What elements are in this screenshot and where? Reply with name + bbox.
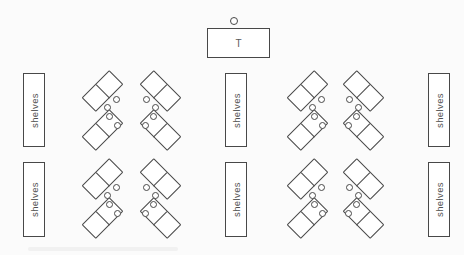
student-desk-pair — [342, 109, 384, 151]
teacher-desk: T — [207, 28, 270, 58]
chair-icon — [114, 210, 121, 217]
chair-icon — [150, 113, 157, 120]
chair-icon — [355, 104, 362, 111]
student-desk-pair — [286, 109, 328, 151]
chair-icon — [345, 122, 352, 129]
desk-cluster — [285, 108, 329, 152]
chair-icon — [142, 210, 149, 217]
chair-icon — [353, 113, 360, 120]
desk-divider — [300, 172, 314, 186]
student-desk-pair — [81, 109, 123, 151]
desk-cluster — [80, 157, 124, 201]
desk-divider — [356, 84, 370, 98]
chair-icon — [319, 122, 326, 129]
desk-divider — [153, 123, 167, 137]
chair-icon — [142, 122, 149, 129]
teacher-chair-icon — [230, 17, 238, 25]
chair-icon — [346, 96, 353, 103]
classroom-diagram: T shelvesshelvesshelvesshelvesshelvesshe… — [0, 0, 464, 255]
shelf-label: shelves — [434, 92, 445, 127]
desk-cluster — [138, 157, 182, 201]
student-desk-pair — [139, 109, 181, 151]
shelf-label: shelves — [29, 182, 40, 217]
chair-icon — [143, 96, 150, 103]
chair-icon — [152, 104, 159, 111]
student-desk-pair — [342, 197, 384, 239]
desk-divider — [153, 211, 167, 225]
chair-icon — [106, 113, 113, 120]
desk-divider — [300, 123, 314, 137]
chair-icon — [152, 192, 159, 199]
desk-divider — [153, 172, 167, 186]
chair-icon — [309, 192, 316, 199]
desk-divider — [95, 172, 109, 186]
desk-divider — [356, 123, 370, 137]
chair-icon — [345, 210, 352, 217]
desk-divider — [95, 123, 109, 137]
student-desk-pair — [286, 70, 328, 112]
shelf-label: shelves — [29, 92, 40, 127]
chair-icon — [353, 201, 360, 208]
chair-icon — [106, 201, 113, 208]
desk-cluster — [341, 196, 385, 240]
desk-divider — [300, 211, 314, 225]
shelf-unit: shelves — [23, 73, 45, 147]
shelf-label: shelves — [231, 182, 242, 217]
shelf-unit: shelves — [225, 73, 247, 147]
chair-icon — [113, 184, 120, 191]
shelf-unit: shelves — [428, 73, 450, 147]
desk-cluster — [138, 196, 182, 240]
student-desk-pair — [81, 70, 123, 112]
student-desk-pair — [81, 158, 123, 200]
teacher-desk-label: T — [235, 38, 241, 49]
student-desk-pair — [139, 70, 181, 112]
desk-cluster — [285, 196, 329, 240]
desk-divider — [300, 84, 314, 98]
student-desk-pair — [139, 158, 181, 200]
desk-cluster — [341, 157, 385, 201]
shelf-label: shelves — [231, 92, 242, 127]
student-desk-pair — [81, 197, 123, 239]
chair-icon — [104, 192, 111, 199]
desk-cluster — [138, 108, 182, 152]
desk-cluster — [341, 108, 385, 152]
chair-icon — [311, 113, 318, 120]
caption-remnant — [28, 247, 178, 251]
chair-icon — [311, 201, 318, 208]
desk-cluster — [285, 69, 329, 113]
student-desk-pair — [342, 158, 384, 200]
desk-cluster — [80, 108, 124, 152]
chair-icon — [150, 201, 157, 208]
chair-icon — [355, 192, 362, 199]
chair-icon — [113, 96, 120, 103]
chair-icon — [143, 184, 150, 191]
chair-icon — [318, 96, 325, 103]
desk-divider — [95, 84, 109, 98]
desk-cluster — [138, 69, 182, 113]
shelf-unit: shelves — [428, 162, 450, 237]
desk-cluster — [80, 196, 124, 240]
desk-divider — [356, 211, 370, 225]
desk-divider — [356, 172, 370, 186]
desk-cluster — [285, 157, 329, 201]
chair-icon — [104, 104, 111, 111]
student-desk-pair — [286, 197, 328, 239]
shelf-unit: shelves — [23, 162, 45, 237]
chair-icon — [319, 210, 326, 217]
desk-divider — [95, 211, 109, 225]
shelf-label: shelves — [434, 182, 445, 217]
chair-icon — [114, 122, 121, 129]
chair-icon — [318, 184, 325, 191]
desk-cluster — [341, 69, 385, 113]
shelf-unit: shelves — [225, 162, 247, 237]
desk-divider — [153, 84, 167, 98]
student-desk-pair — [286, 158, 328, 200]
chair-icon — [346, 184, 353, 191]
desk-cluster — [80, 69, 124, 113]
chair-icon — [309, 104, 316, 111]
student-desk-pair — [342, 70, 384, 112]
student-desk-pair — [139, 197, 181, 239]
